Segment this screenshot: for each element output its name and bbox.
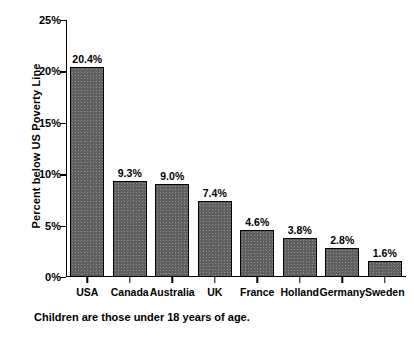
bar-group[interactable]: 7.4%UK — [194, 20, 237, 277]
bar-group[interactable]: 20.4%USA — [66, 20, 109, 277]
x-axis-tick-mark — [257, 277, 258, 283]
x-axis-tick-mark — [129, 277, 130, 283]
bar-group[interactable]: 4.6%France — [236, 20, 279, 277]
plot-area: 0%5%10%15%20%25% 20.4%USA9.3%Canada9.0%A… — [66, 20, 406, 277]
bar-value-label: 9.3% — [118, 167, 142, 179]
chart-caption: Children are those under 18 years of age… — [34, 311, 250, 323]
bar-group[interactable]: 2.8%Germany — [321, 20, 364, 277]
bar-group[interactable]: 1.6%Sweden — [364, 20, 407, 277]
bar[interactable]: 20.4% — [70, 67, 104, 277]
bar[interactable]: 4.6% — [240, 230, 274, 277]
y-axis-tick-label: 5% — [45, 220, 61, 232]
x-axis-tick-mark — [299, 277, 300, 283]
x-axis-tick-label: Canada — [111, 286, 149, 298]
bar[interactable]: 2.8% — [325, 248, 359, 277]
x-axis-tick-mark — [172, 277, 173, 283]
y-axis-title: Percent below US Poverty Line — [30, 26, 42, 266]
bar[interactable]: 9.0% — [155, 184, 189, 277]
x-axis-tick-label: UK — [207, 286, 222, 298]
bar-value-label: 9.0% — [160, 170, 184, 182]
bar-value-label: 2.8% — [330, 234, 354, 246]
bar-value-label: 1.6% — [373, 247, 397, 259]
bar-group[interactable]: 3.8%Holland — [279, 20, 322, 277]
poverty-bar-chart: Percent below US Poverty Line 0%5%10%15%… — [0, 0, 414, 340]
y-axis-tick-label: 10% — [39, 168, 61, 180]
bar-group[interactable]: 9.3%Canada — [109, 20, 152, 277]
y-axis-tick-label: 20% — [39, 65, 61, 77]
bar[interactable]: 3.8% — [283, 238, 317, 277]
bar-value-label: 7.4% — [203, 187, 227, 199]
y-axis-tick-label: 0% — [45, 271, 61, 283]
bar-value-label: 20.4% — [72, 53, 102, 65]
y-axis-tick-label: 25% — [39, 14, 61, 26]
bar[interactable]: 7.4% — [198, 201, 232, 277]
x-axis-tick-mark — [214, 277, 215, 283]
x-axis-tick-label: Sweden — [365, 286, 405, 298]
bar[interactable]: 1.6% — [368, 261, 402, 277]
x-axis-tick-label: Australia — [150, 286, 195, 298]
x-axis-tick-mark — [87, 277, 88, 283]
bar-value-label: 3.8% — [288, 224, 312, 236]
x-axis-tick-label: Holland — [281, 286, 320, 298]
y-axis-tick-label: 15% — [39, 117, 61, 129]
x-axis-tick-mark — [384, 277, 385, 283]
x-axis-tick-label: France — [240, 286, 274, 298]
bar-group[interactable]: 9.0%Australia — [151, 20, 194, 277]
x-axis-tick-label: USA — [76, 286, 98, 298]
bar-value-label: 4.6% — [245, 216, 269, 228]
x-axis-tick-mark — [342, 277, 343, 283]
x-axis-tick-label: Germany — [319, 286, 365, 298]
bar[interactable]: 9.3% — [113, 181, 147, 277]
bars-layer: 20.4%USA9.3%Canada9.0%Australia7.4%UK4.6… — [66, 20, 406, 277]
